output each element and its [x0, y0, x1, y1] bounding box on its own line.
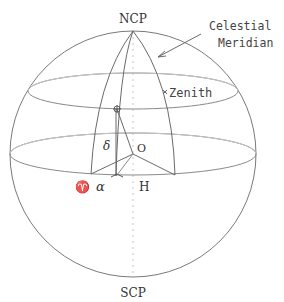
label-ncp: NCP [119, 12, 147, 26]
line-origin-to-meridian [133, 154, 175, 175]
label-right-ascension: α [96, 179, 105, 194]
line-origin-to-star [117, 109, 133, 154]
label-meridian: Meridian [218, 36, 273, 50]
label-zenith: Zenith [169, 86, 212, 100]
celestial-equator-back [10, 133, 256, 154]
label-vernal-equinox: ♈ [75, 180, 90, 194]
line-origin-to-vernal [91, 154, 133, 174]
label-hour-angle: H [139, 180, 149, 194]
hour-circle-star [116, 31, 133, 176]
meridian-pointer-arrowhead-icon [158, 51, 166, 57]
label-origin: O [137, 142, 146, 155]
celestial-sphere-diagram: NCP SCP Celestial Meridian Zenith δ O ♈ … [0, 0, 284, 302]
label-scp: SCP [120, 286, 145, 300]
label-declination: δ [103, 139, 110, 153]
label-celestial: Celestial [209, 19, 271, 33]
meridian-pointer-line [158, 34, 201, 57]
line-origin-to-star-foot [117, 154, 133, 175]
